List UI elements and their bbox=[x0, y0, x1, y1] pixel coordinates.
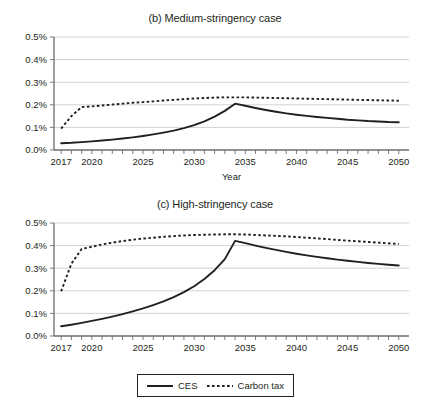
x-tick-label: 2040 bbox=[286, 342, 307, 353]
y-tick-label: 0.5% bbox=[25, 217, 47, 228]
x-tick-label: 2045 bbox=[337, 156, 358, 167]
legend-item-ces: CES bbox=[147, 381, 198, 391]
x-tick-label: 2025 bbox=[132, 156, 153, 167]
y-tick-label: 0.0% bbox=[25, 144, 47, 155]
series-line-carbon-tax bbox=[61, 97, 399, 128]
x-tick-label: 2030 bbox=[184, 342, 205, 353]
y-tick-label: 0.3% bbox=[25, 77, 47, 88]
y-tick-label: 0.2% bbox=[25, 285, 47, 296]
x-tick-label: 2050 bbox=[388, 342, 409, 353]
dotted-line-icon bbox=[207, 381, 233, 391]
x-tick-label: 2020 bbox=[81, 342, 102, 353]
x-tick-label: 2035 bbox=[235, 156, 256, 167]
chart-legend: CES Carbon tax bbox=[137, 374, 294, 397]
plot-area-high: 0.0%0.1%0.2%0.3%0.4%0.5%2017202020252030… bbox=[0, 190, 430, 355]
figure-container: (b) Medium-stringency case 0.0%0.1%0.2%0… bbox=[0, 0, 430, 419]
y-tick-label: 0.4% bbox=[25, 54, 47, 65]
series-line-ces bbox=[61, 104, 399, 144]
x-axis-title: Year bbox=[222, 171, 241, 182]
x-tick-label: 2020 bbox=[81, 156, 102, 167]
y-tick-label: 0.1% bbox=[25, 122, 47, 133]
x-tick-label: 2030 bbox=[184, 156, 205, 167]
legend-item-carbon-tax: Carbon tax bbox=[207, 381, 284, 391]
legend-label-ces: CES bbox=[178, 381, 198, 391]
y-tick-label: 0.3% bbox=[25, 263, 47, 274]
x-tick-label: 2045 bbox=[337, 342, 358, 353]
y-tick-label: 0.1% bbox=[25, 308, 47, 319]
chart-panel-medium-stringency: (b) Medium-stringency case 0.0%0.1%0.2%0… bbox=[0, 0, 430, 190]
y-tick-label: 0.0% bbox=[25, 330, 47, 341]
chart-panel-high-stringency: (c) High-stringency case 0.0%0.1%0.2%0.3… bbox=[0, 190, 430, 355]
solid-line-icon bbox=[147, 381, 173, 391]
legend-label-carbon-tax: Carbon tax bbox=[238, 381, 284, 391]
x-tick-label: 2017 bbox=[51, 342, 72, 353]
x-tick-label: 2050 bbox=[388, 156, 409, 167]
y-tick-label: 0.4% bbox=[25, 240, 47, 251]
series-line-carbon-tax bbox=[61, 234, 399, 291]
y-tick-label: 0.2% bbox=[25, 99, 47, 110]
plot-area-medium: 0.0%0.1%0.2%0.3%0.4%0.5%2017202020252030… bbox=[0, 0, 430, 190]
y-tick-label: 0.5% bbox=[25, 31, 47, 42]
x-tick-label: 2025 bbox=[132, 342, 153, 353]
x-tick-label: 2017 bbox=[51, 156, 72, 167]
x-tick-label: 2040 bbox=[286, 156, 307, 167]
x-tick-label: 2035 bbox=[235, 342, 256, 353]
